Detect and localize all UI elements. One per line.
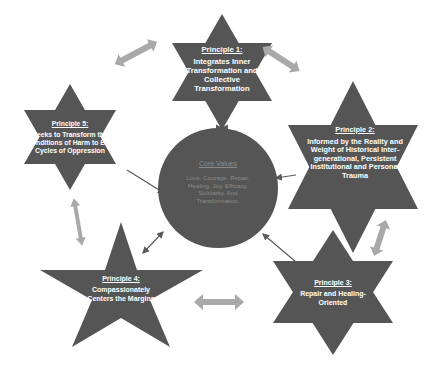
arrow-p5-p1 (112, 36, 161, 71)
principle-4-label: Principle 4: Compassionately Centers the… (76, 275, 166, 303)
core-values-text: Love, Courage, Repair, Healing, Joy, Eff… (176, 174, 260, 205)
principle-5-title: Principle 5: (22, 120, 118, 128)
arrow-p2-p3 (367, 218, 392, 258)
principle-4-title: Principle 4: (76, 275, 166, 283)
core-values-label: Core Values Love, Courage, Repair, Heali… (176, 160, 260, 205)
core-values-title: Core Values (176, 160, 260, 169)
principle-3-text: Repair and Healing-Oriented (290, 290, 376, 307)
principle-1-label: Principle 1: Integrates Inner Transforma… (170, 46, 274, 94)
connector-p3 (263, 234, 296, 262)
principle-5-text: Seeks to Transform the Conditions of Har… (22, 131, 118, 155)
principle-3-title: Principle 3: (290, 279, 376, 287)
principle-2-text: Informed by the Reality and Weight of Hi… (296, 138, 414, 181)
connector-p2 (276, 175, 296, 178)
principle-4-text: Compassionately Centers the Margins (76, 286, 166, 303)
connector-p4 (143, 232, 163, 253)
principle-1-text: Integrates Inner Transformation and Coll… (170, 58, 274, 94)
arrow-p4-p5 (69, 197, 87, 246)
principle-2-title: Principle 2: (296, 126, 414, 135)
principle-3-label: Principle 3: Repair and Healing-Oriented (290, 279, 376, 307)
principle-2-label: Principle 2: Informed by the Reality and… (296, 126, 414, 181)
arrow-p3-p4 (194, 294, 244, 310)
principle-5-label: Principle 5: Seeks to Transform the Cond… (22, 120, 118, 155)
principle-1-title: Principle 1: (170, 46, 274, 55)
